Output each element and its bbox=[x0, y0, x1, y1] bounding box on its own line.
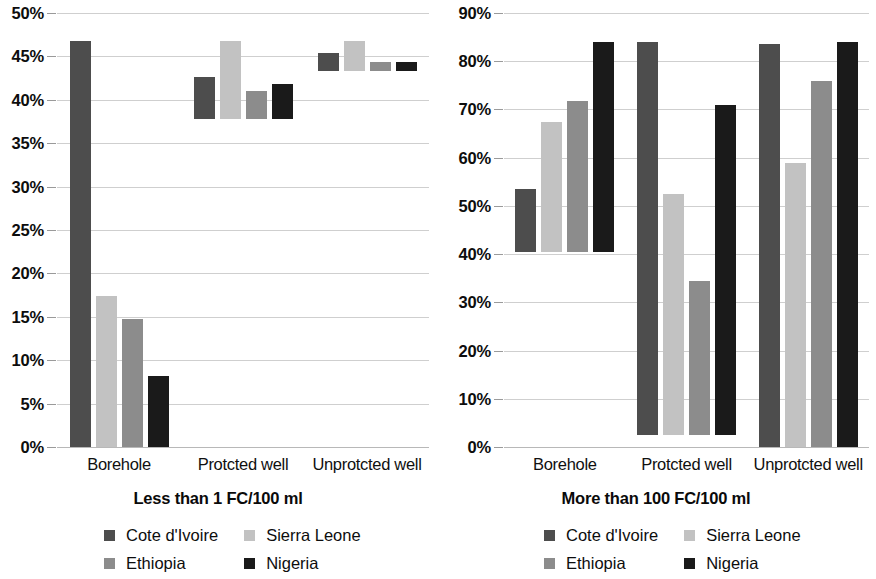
bar bbox=[318, 53, 339, 71]
y-tick-mark bbox=[494, 206, 503, 207]
y-tick-label: 10% bbox=[443, 391, 491, 408]
bar bbox=[148, 376, 169, 447]
y-tick-label: 5% bbox=[0, 396, 44, 413]
legend-swatch-icon bbox=[104, 558, 115, 569]
y-tick-mark bbox=[47, 100, 56, 101]
x-axis-label: Protcted well bbox=[181, 455, 305, 474]
x-axis-label: Unprotcted well bbox=[747, 455, 869, 474]
y-tick-label: 45% bbox=[0, 48, 44, 65]
legend-swatch-icon bbox=[244, 530, 255, 541]
legend-item: Cote d'Ivoire bbox=[104, 526, 218, 545]
y-tick-label: 60% bbox=[443, 150, 491, 167]
legend-label: Ethiopia bbox=[566, 554, 626, 573]
bar bbox=[837, 42, 858, 447]
legend-item: Cote d'Ivoire bbox=[544, 526, 658, 545]
legend-label: Cote d'Ivoire bbox=[566, 526, 658, 545]
legend-label: Sierra Leone bbox=[266, 526, 360, 545]
y-tick-label: 35% bbox=[0, 135, 44, 152]
legend-item: Ethiopia bbox=[544, 554, 658, 573]
legend-label: Nigeria bbox=[266, 554, 318, 573]
gridline-0 bbox=[57, 447, 429, 448]
y-tick-label: 20% bbox=[0, 265, 44, 282]
bar-group bbox=[57, 41, 181, 447]
bar-group bbox=[181, 41, 305, 119]
y-tick-mark bbox=[47, 447, 56, 448]
bar bbox=[567, 101, 588, 251]
y-tick-label: 0% bbox=[443, 439, 491, 456]
y-tick-mark bbox=[47, 317, 56, 318]
gridline-90 bbox=[504, 13, 869, 14]
legend-item: Nigeria bbox=[684, 554, 800, 573]
legend-swatch-icon bbox=[544, 530, 555, 541]
y-tick-mark bbox=[47, 13, 56, 14]
chart-page: 50%45%40%35%30%25%20%15%10%5%0% Borehole… bbox=[0, 0, 876, 579]
bar-group bbox=[305, 41, 429, 71]
gridline-50 bbox=[57, 13, 429, 14]
bar bbox=[70, 41, 91, 447]
y-tick-label: 15% bbox=[0, 309, 44, 326]
y-tick-label: 40% bbox=[443, 246, 491, 263]
gridline-0 bbox=[504, 447, 869, 448]
y-tick-mark bbox=[47, 360, 56, 361]
y-tick-mark bbox=[494, 158, 503, 159]
bar-group bbox=[504, 42, 626, 252]
y-tick-mark bbox=[47, 273, 56, 274]
y-tick-mark bbox=[47, 404, 56, 405]
bar bbox=[96, 296, 117, 447]
legend-item: Sierra Leone bbox=[244, 526, 360, 545]
left-chart-caption: Less than 1 FC/100 ml bbox=[0, 489, 436, 508]
bar bbox=[785, 163, 806, 448]
legend-item: Sierra Leone bbox=[684, 526, 800, 545]
y-tick-mark bbox=[494, 61, 503, 62]
panel-less-than-1: 50%45%40%35%30%25%20%15%10%5%0% Borehole… bbox=[0, 0, 436, 579]
y-tick-label: 0% bbox=[0, 439, 44, 456]
bar bbox=[663, 194, 684, 435]
bar bbox=[759, 44, 780, 447]
y-tick-label: 50% bbox=[0, 5, 44, 22]
bar bbox=[246, 91, 267, 119]
y-tick-label: 30% bbox=[0, 179, 44, 196]
bar bbox=[122, 319, 143, 447]
legend-label: Cote d'Ivoire bbox=[126, 526, 218, 545]
y-tick-label: 40% bbox=[0, 92, 44, 109]
legend-swatch-icon bbox=[684, 530, 695, 541]
y-tick-label: 70% bbox=[443, 101, 491, 118]
y-tick-mark bbox=[494, 254, 503, 255]
bar bbox=[593, 42, 614, 252]
y-tick-mark bbox=[47, 230, 56, 231]
y-tick-mark bbox=[494, 109, 503, 110]
right-chart-caption: More than 100 FC/100 ml bbox=[436, 489, 876, 508]
y-tick-mark bbox=[47, 143, 56, 144]
x-axis-label: Unprotcted well bbox=[305, 455, 429, 474]
left-x-axis-labels: BoreholeProtcted wellUnprotcted well bbox=[57, 455, 429, 474]
legend-swatch-icon bbox=[544, 558, 555, 569]
panel-more-than-100: 90%80%70%60%50%40%30%20%10%0% BoreholePr… bbox=[436, 0, 876, 579]
right-plot-area bbox=[504, 13, 869, 447]
legend-swatch-icon bbox=[244, 558, 255, 569]
legend-label: Nigeria bbox=[706, 554, 758, 573]
y-tick-mark bbox=[494, 399, 503, 400]
y-tick-mark bbox=[47, 56, 56, 57]
bar bbox=[194, 77, 215, 119]
y-tick-mark bbox=[494, 302, 503, 303]
bar bbox=[515, 189, 536, 252]
y-tick-mark bbox=[494, 447, 503, 448]
bar bbox=[344, 41, 365, 71]
y-tick-mark bbox=[494, 13, 503, 14]
x-axis-label: Protcted well bbox=[626, 455, 748, 474]
bar bbox=[637, 42, 658, 435]
y-tick-label: 25% bbox=[0, 222, 44, 239]
left-legend: Cote d'IvoireSierra LeoneEthiopiaNigeria bbox=[104, 526, 361, 573]
bar-group bbox=[747, 42, 869, 447]
bar bbox=[396, 62, 417, 71]
bar bbox=[272, 84, 293, 119]
y-tick-label: 50% bbox=[443, 198, 491, 215]
legend-label: Ethiopia bbox=[126, 554, 186, 573]
legend-item: Nigeria bbox=[244, 554, 360, 573]
y-tick-label: 90% bbox=[443, 5, 491, 22]
y-tick-mark bbox=[47, 187, 56, 188]
x-axis-label: Borehole bbox=[57, 455, 181, 474]
y-tick-label: 20% bbox=[443, 343, 491, 360]
bar bbox=[541, 122, 562, 252]
right-bar-groups bbox=[504, 42, 869, 447]
